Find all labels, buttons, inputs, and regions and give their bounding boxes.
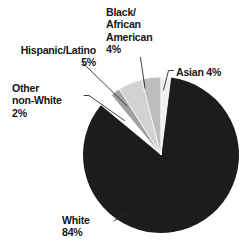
slice-label-asian: Asian 4%: [176, 66, 237, 78]
slice-label-other-non-white: Other non-White 2%: [12, 82, 86, 119]
pie-chart-figure: Black/ African American 4% Hispanic/Lati…: [0, 0, 245, 252]
slice-label-white: White 84%: [62, 214, 112, 239]
slice-label-black-african-american: Black/ African American 4%: [106, 6, 174, 56]
leader-line-hispanic-latino: [83, 63, 128, 107]
slice-label-hispanic-latino: Hispanic/Latino 5%: [13, 44, 96, 69]
